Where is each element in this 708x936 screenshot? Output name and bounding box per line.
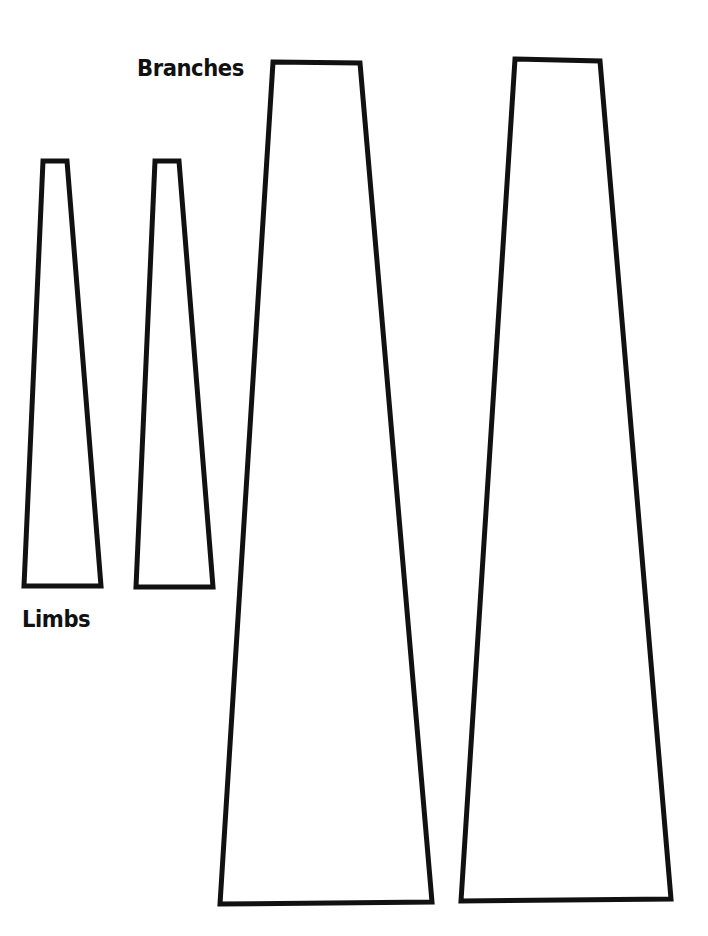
branch-shape-2 [461, 59, 671, 901]
limb-shape-2 [136, 161, 213, 587]
limbs-label: Limbs [22, 606, 90, 632]
branches-label: Branches [137, 55, 244, 81]
branch-shape-1 [220, 62, 432, 904]
template-sheet: Branches Limbs [0, 0, 708, 936]
shapes-canvas [0, 0, 708, 936]
limb-shape-1 [24, 161, 101, 586]
